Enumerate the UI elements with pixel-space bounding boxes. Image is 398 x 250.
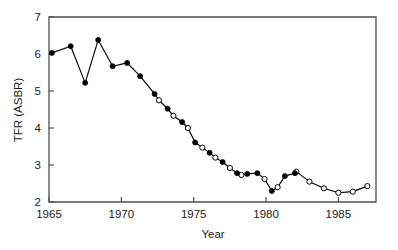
axes (49, 17, 376, 202)
data-point-open (213, 155, 218, 160)
data-point-open (350, 189, 355, 194)
y-tick-label: 6 (35, 48, 41, 60)
data-point-filled (235, 171, 240, 176)
data-point-filled (282, 174, 287, 179)
data-point-open (321, 186, 326, 191)
data-point-filled (96, 37, 101, 42)
x-tick-label: 1965 (36, 208, 62, 220)
data-point-open (227, 165, 232, 170)
data-point-filled (269, 188, 274, 193)
data-point-filled (83, 80, 88, 85)
data-series (52, 40, 367, 193)
x-tick-label: 1970 (109, 208, 135, 220)
data-point-open (336, 190, 341, 195)
plot-frame (49, 17, 376, 202)
data-point-filled (220, 160, 225, 165)
data-point-filled (152, 91, 157, 96)
data-point-filled (68, 44, 73, 49)
data-point-filled (193, 140, 198, 145)
data-point-open (365, 183, 370, 188)
data-point-filled (110, 64, 115, 69)
data-point-open (275, 185, 280, 190)
data-point-open (262, 176, 267, 181)
data-point-filled (245, 171, 250, 176)
chart-figure: 23456719651970197519801985 Year TFR (ASB… (0, 0, 398, 250)
data-point-filled (125, 60, 130, 65)
line-chart-svg: 23456719651970197519801985 Year TFR (ASB… (0, 0, 398, 250)
data-point-open (156, 98, 161, 103)
y-tick-label: 2 (35, 196, 41, 208)
data-point-open (185, 125, 190, 130)
y-tick-label: 4 (35, 122, 42, 134)
data-point-open (307, 179, 312, 184)
x-axis-title: Year (201, 228, 224, 240)
data-point-open (171, 113, 176, 118)
data-point-open (200, 145, 205, 150)
y-tick-label: 5 (35, 85, 41, 97)
data-markers (49, 37, 370, 195)
x-tick-label: 1985 (326, 208, 352, 220)
data-point-filled (165, 106, 170, 111)
data-point-filled (207, 150, 212, 155)
data-point-filled (49, 50, 54, 55)
data-point-filled (180, 120, 185, 125)
x-tick-label: 1975 (181, 208, 207, 220)
y-tick-label: 7 (35, 11, 41, 23)
series-polyline (52, 40, 367, 193)
y-tick-label: 3 (35, 159, 41, 171)
y-axis-title: TFR (ASBR) (12, 78, 24, 143)
x-tick-label: 1980 (253, 208, 279, 220)
data-point-filled (138, 74, 143, 79)
data-point-filled (292, 171, 297, 176)
tick-labels: 23456719651970197519801985 (35, 11, 352, 220)
data-point-filled (255, 171, 260, 176)
